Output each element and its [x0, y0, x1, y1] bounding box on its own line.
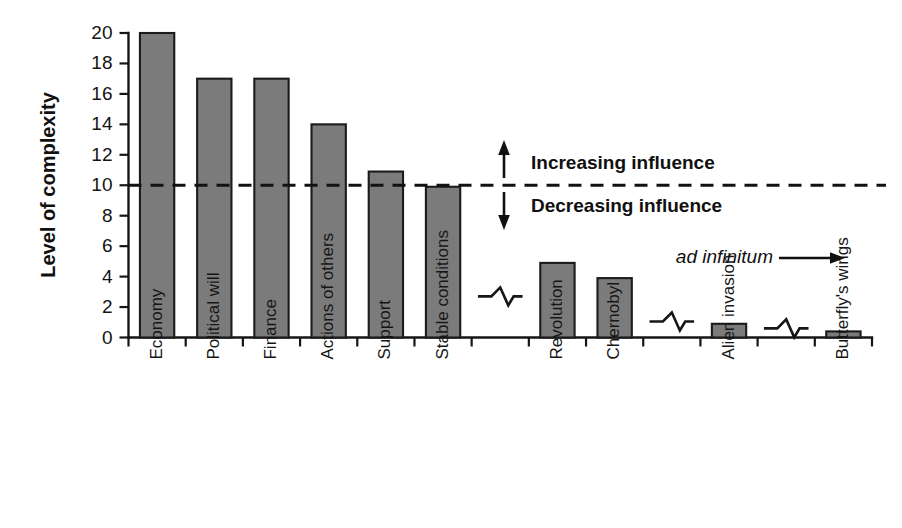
y-tick-label: 6 — [102, 235, 113, 256]
category-label: Alien invasion — [719, 255, 738, 360]
y-tick-label: 12 — [91, 144, 112, 165]
y-tick-label: 0 — [102, 327, 113, 348]
increasing-influence-annotation: Increasing influence — [498, 140, 715, 178]
decreasing-influence-annotation: Decreasing influence — [498, 192, 722, 230]
ad-infinitum-annotation: ad infinitum — [676, 246, 845, 267]
increasing-influence-label: Increasing influence — [531, 152, 715, 173]
y-tick-label: 20 — [91, 22, 112, 43]
category-label: Political will — [204, 273, 223, 360]
complexity-bar-chart: 02468101214161820 Level of complexity Ec… — [0, 0, 902, 528]
category-label: Finance — [261, 299, 280, 359]
chart-canvas: 02468101214161820 Level of complexity Ec… — [0, 0, 902, 528]
axis-break-squiggle — [650, 313, 695, 331]
axis-break-squiggle — [764, 319, 809, 337]
decreasing-influence-label: Decreasing influence — [531, 195, 722, 216]
y-tick-label: 2 — [102, 296, 113, 317]
x-axis-ticks — [129, 338, 873, 347]
axis-break-squiggle — [478, 287, 523, 305]
break-symbols — [478, 287, 809, 337]
category-label: Economy — [147, 288, 166, 359]
y-tick-label: 14 — [91, 113, 113, 134]
category-label: Actions of others — [318, 233, 337, 360]
category-label: Revolution — [547, 279, 566, 359]
y-tick-label: 18 — [91, 52, 112, 73]
up-arrow-head — [498, 140, 510, 155]
down-arrow-head — [498, 215, 510, 230]
y-axis: 02468101214161820 Level of complexity — [37, 22, 129, 348]
y-axis-title: Level of complexity — [37, 91, 59, 277]
y-tick-label: 8 — [102, 205, 113, 226]
category-label: Support — [375, 300, 394, 360]
y-tick-label: 16 — [91, 83, 112, 104]
category-label: Stable conditions — [433, 230, 452, 359]
ad-infinitum-label: ad infinitum — [676, 246, 773, 267]
y-tick-label: 4 — [102, 266, 113, 287]
chart-annotations: Increasing influence Decreasing influenc… — [498, 140, 845, 267]
y-axis-tick-labels: 02468101214161820 — [91, 22, 113, 348]
category-label: Chernobyl — [604, 282, 623, 360]
y-axis-ticks — [120, 33, 129, 338]
bar — [254, 79, 288, 338]
y-tick-label: 10 — [91, 174, 112, 195]
x-axis — [129, 338, 873, 347]
